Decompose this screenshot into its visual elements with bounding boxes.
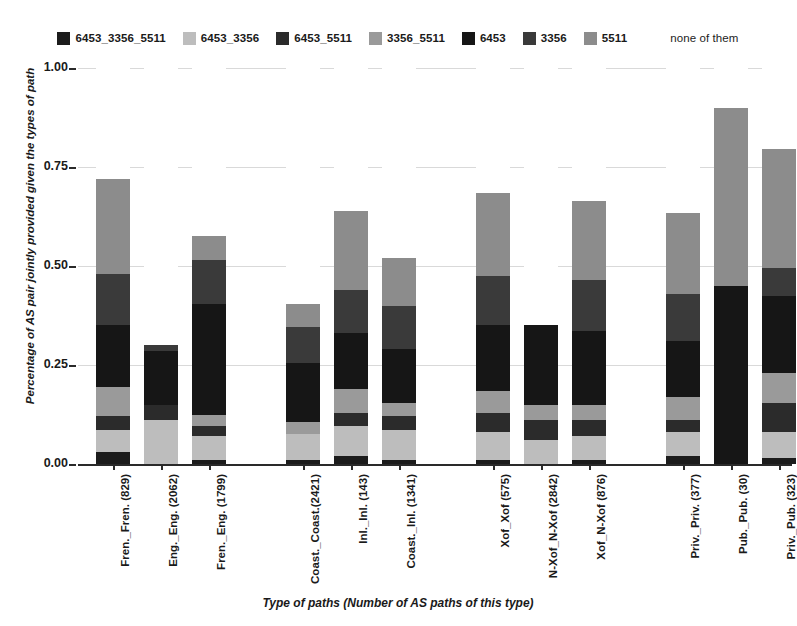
legend-item-6453-3356-5511[interactable]: 6453_3356_5511 [57,32,165,45]
bar-segment[interactable] [476,432,510,460]
bar-stack[interactable] [666,68,700,464]
bar-segment[interactable] [524,325,558,404]
bar-segment[interactable] [144,68,178,345]
bar-segment[interactable] [286,304,320,328]
bar-segment[interactable] [476,325,510,390]
bar-segment[interactable] [762,296,796,373]
bar-segment[interactable] [334,389,368,413]
bar-stack[interactable] [382,68,416,464]
bar-segment[interactable] [572,280,606,331]
bar-segment[interactable] [286,434,320,460]
bar-stack[interactable] [572,68,606,464]
bar-segment[interactable] [382,258,416,306]
legend-item-6453-3356[interactable]: 6453_3356 [183,32,259,45]
bar-segment[interactable] [192,304,226,415]
bar-segment[interactable] [476,68,510,193]
bar-stack[interactable] [334,68,368,464]
bar-segment[interactable] [144,405,178,421]
bar-segment[interactable] [476,193,510,276]
bar-segment[interactable] [666,456,700,464]
bar-segment[interactable] [762,432,796,458]
bar-segment[interactable] [144,345,178,351]
legend-item-3356-5511[interactable]: 3356_5511 [369,32,445,45]
bar-stack[interactable] [144,68,178,464]
bar-segment[interactable] [286,68,320,304]
bar-segment[interactable] [192,436,226,460]
legend-item-3356[interactable]: 3356 [523,32,567,45]
bar-stack[interactable] [192,68,226,464]
bar-segment[interactable] [96,416,130,430]
bar-segment[interactable] [524,68,558,325]
bar-segment[interactable] [382,416,416,430]
bar-segment[interactable] [714,286,748,464]
bar-segment[interactable] [666,294,700,342]
bar-segment[interactable] [286,422,320,434]
bar-segment[interactable] [762,268,796,296]
bar-segment[interactable] [286,327,320,363]
legend-item-6453[interactable]: 6453 [462,32,506,45]
bar-segment[interactable] [334,333,368,388]
y-axis-tick-mark [69,68,76,70]
bar-stack[interactable] [762,68,796,464]
bar-segment[interactable] [476,413,510,433]
bar-segment[interactable] [192,236,226,260]
bar-segment[interactable] [762,149,796,268]
bar-segment[interactable] [382,68,416,258]
bar-segment[interactable] [382,430,416,460]
bar-segment[interactable] [572,405,606,421]
bar-segment[interactable] [762,403,796,433]
bar-segment[interactable] [334,290,368,334]
bar-segment[interactable] [96,430,130,452]
bar-segment[interactable] [714,68,748,108]
bar-segment[interactable] [762,68,796,149]
legend-item-5511[interactable]: 5511 [584,32,627,45]
bar-segment[interactable] [666,397,700,421]
bar-segment[interactable] [572,68,606,201]
bar-segment[interactable] [714,108,748,286]
bar-segment[interactable] [334,426,368,456]
bar-stack[interactable] [476,68,510,464]
bar-segment[interactable] [334,456,368,464]
bar-segment[interactable] [334,68,368,211]
bar-segment[interactable] [96,179,130,274]
bar-segment[interactable] [762,373,796,403]
legend-item-none-of-them[interactable]: none of them [670,32,738,44]
bar-segment[interactable] [524,420,558,440]
bar-segment[interactable] [572,436,606,460]
bar-segment[interactable] [96,387,130,417]
bar-stack[interactable] [524,68,558,464]
bar-segment[interactable] [666,341,700,396]
x-axis-title: Type of paths (Number of AS paths of thi… [0,596,796,610]
bar-segment[interactable] [96,452,130,464]
bar-segment[interactable] [96,325,130,386]
bar-segment[interactable] [192,260,226,304]
bar-segment[interactable] [192,68,226,236]
bar-segment[interactable] [192,426,226,436]
bar-segment[interactable] [572,331,606,404]
bar-segment[interactable] [334,413,368,427]
bar-segment[interactable] [666,213,700,294]
bar-segment[interactable] [96,274,130,325]
bar-segment[interactable] [192,415,226,427]
bar-segment[interactable] [144,351,178,404]
legend-item-6453-5511[interactable]: 6453_5511 [276,32,352,45]
bar-segment[interactable] [382,306,416,350]
bar-segment[interactable] [382,403,416,417]
bar-segment[interactable] [476,276,510,326]
bar-segment[interactable] [524,405,558,421]
bar-segment[interactable] [144,420,178,464]
bar-segment[interactable] [666,420,700,432]
bar-segment[interactable] [286,363,320,422]
bar-segment[interactable] [666,432,700,456]
bar-segment[interactable] [572,420,606,436]
bar-segment[interactable] [382,349,416,402]
bar-segment[interactable] [476,391,510,413]
bar-segment[interactable] [96,68,130,179]
bar-segment[interactable] [524,440,558,464]
bar-segment[interactable] [572,201,606,280]
bar-stack[interactable] [286,68,320,464]
bar-segment[interactable] [666,68,700,213]
bar-segment[interactable] [334,211,368,290]
bar-stack[interactable] [96,68,130,464]
bar-stack[interactable] [714,68,748,464]
